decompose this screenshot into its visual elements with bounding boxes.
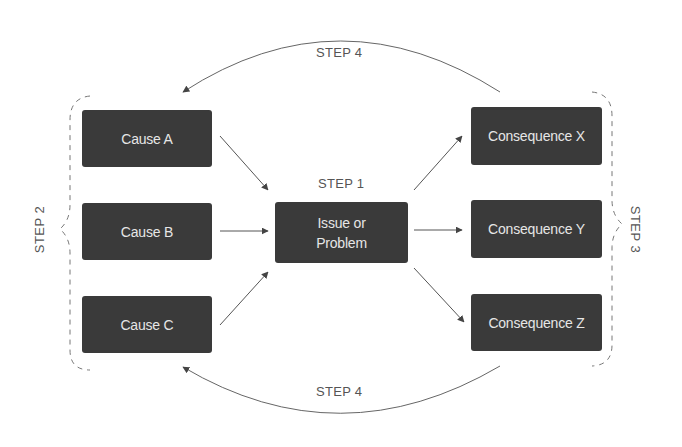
- issue-label-line1: Issue or: [317, 213, 365, 233]
- arrow-cause-c-to-issue: [220, 272, 268, 325]
- cause-b-label: Cause B: [121, 222, 173, 242]
- consequence-z-box: Consequence Z: [471, 294, 602, 351]
- issue-label-line2: Problem: [316, 233, 367, 253]
- consequence-x-box: Consequence X: [471, 107, 602, 165]
- step1-label: STEP 1: [318, 176, 364, 191]
- consequence-x-label: Consequence X: [488, 126, 585, 146]
- consequence-z-label: Consequence Z: [488, 313, 584, 333]
- cause-c-box: Cause C: [82, 296, 212, 353]
- arrow-issue-to-consequence-z: [414, 268, 464, 322]
- step4-bottom-label: STEP 4: [316, 384, 362, 399]
- cause-c-label: Cause C: [120, 315, 173, 335]
- cause-a-box: Cause A: [82, 110, 212, 167]
- step4-top-label: STEP 4: [316, 45, 362, 60]
- cause-b-box: Cause B: [82, 203, 212, 260]
- arrow-cause-a-to-issue: [220, 136, 268, 190]
- issue-box: Issue or Problem: [275, 202, 408, 263]
- step3-label: STEP 3: [628, 205, 643, 253]
- consequence-y-label: Consequence Y: [488, 219, 585, 239]
- arrow-issue-to-consequence-x: [414, 136, 462, 190]
- cause-a-label: Cause A: [121, 129, 173, 149]
- consequence-y-box: Consequence Y: [471, 200, 602, 258]
- step2-label: STEP 2: [32, 205, 47, 253]
